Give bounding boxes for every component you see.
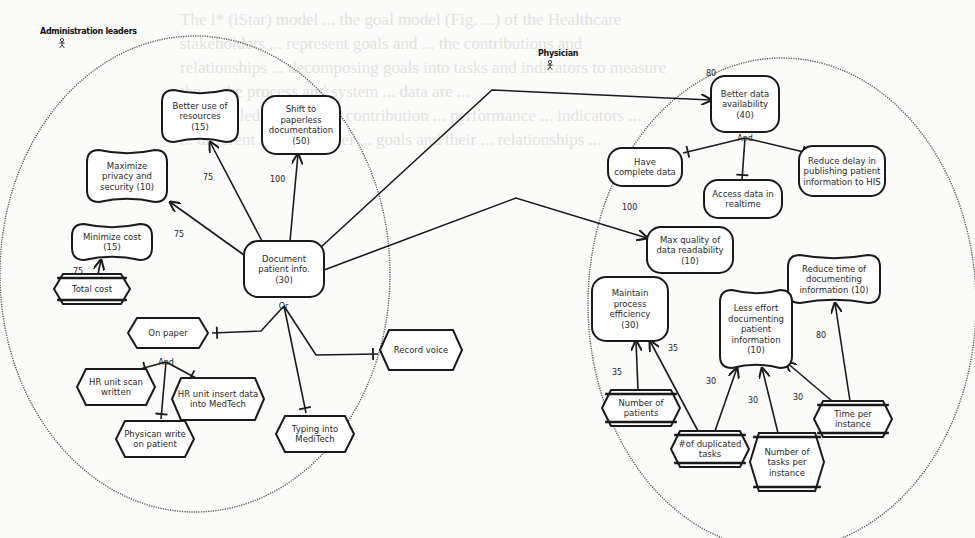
contribution-link[interactable]: 30	[748, 368, 778, 433]
node-label-line: Reduce delay in	[808, 156, 876, 166]
node-label-line: privacy and	[102, 171, 152, 181]
contribution-weight: 100	[270, 175, 285, 184]
contribution-weight: 35	[612, 368, 622, 377]
node-label-line: paperless	[280, 115, 322, 125]
node-max-quality[interactable]: Max quality ofdata readability(10)	[647, 227, 733, 273]
node-label-line: process	[614, 299, 647, 309]
node-hr-insert[interactable]: HR unit insert datainto MedTech	[172, 378, 264, 420]
node-realtime[interactable]: Access data inrealtime	[704, 180, 782, 218]
decomposition-and[interactable]: And	[683, 134, 808, 180]
node-label-line: MediTech	[295, 434, 334, 444]
decomposition-branch	[742, 138, 745, 180]
node-label-line: Document	[262, 254, 307, 264]
actor-admin[interactable]: Administration leaders	[40, 27, 137, 48]
decomposition-branch	[161, 362, 166, 419]
node-label-line: information	[731, 335, 780, 345]
node-label-line: patient info.	[258, 264, 309, 274]
contribution-link[interactable]: 30	[706, 368, 737, 431]
node-label-line: HR unit insert data	[178, 389, 258, 399]
node-label-line: realtime	[725, 199, 760, 209]
node-num-patients[interactable]: Number ofpatients	[602, 390, 680, 426]
node-tasks-per-inst[interactable]: Number oftasks perinstance	[750, 433, 824, 491]
node-label-line: #of duplicated	[679, 439, 742, 449]
contribution-link[interactable]: 75	[170, 202, 244, 255]
node-reduce-time[interactable]: Reduce time ofdocumentinginformation (10…	[788, 255, 880, 303]
node-paperless[interactable]: Shift topaperlessdocumentation(50)	[262, 96, 340, 154]
contribution-weight: 30	[706, 377, 716, 386]
actor-label: Physician	[538, 49, 579, 58]
decomposition-bar	[299, 407, 311, 409]
node-label-line: (10)	[747, 345, 764, 355]
contribution-weight: 80	[816, 331, 826, 340]
node-better-data[interactable]: Better dataavailability(40)	[711, 76, 779, 132]
node-privacy[interactable]: Maximizeprivacy andsecurity (10)	[87, 150, 167, 202]
node-record-voice[interactable]: Record voice	[380, 330, 462, 370]
node-label-line: on patient	[133, 439, 177, 449]
node-label-line: (30)	[275, 275, 292, 285]
contribution-weight: 80	[706, 69, 716, 78]
node-label-line: security (10)	[100, 182, 154, 192]
node-label-line: data readability	[656, 245, 723, 255]
node-dup-tasks[interactable]: #of duplicatedtasks	[671, 431, 749, 467]
contribution-link[interactable]: 80	[816, 303, 850, 401]
node-label-line: Reduce time of	[802, 264, 867, 274]
node-label-line: availability	[722, 99, 768, 109]
contribution-link[interactable]: 75	[203, 142, 262, 241]
actor-labels: Administration leadersPhysician	[40, 27, 579, 70]
node-better-resources[interactable]: Better use ofresources(15)	[162, 90, 238, 142]
node-total-cost[interactable]: Total cost	[54, 274, 130, 304]
node-min-cost[interactable]: Minimize cost(15)	[72, 224, 152, 260]
node-label-line: (30)	[621, 320, 638, 330]
node-doc-patient[interactable]: Documentpatient info.(30)	[244, 241, 324, 297]
node-label-line: Less effort	[734, 303, 779, 313]
goal-model-diagram: 75100757580100353530303080 OrAndAnd Bett…	[0, 0, 975, 538]
node-typing-meditech[interactable]: Typing intoMediTech	[276, 416, 354, 452]
contribution-link[interactable]: 30	[786, 362, 832, 402]
node-label-line: instance	[769, 468, 805, 478]
decomposition-branch	[683, 138, 745, 153]
node-hr-scan[interactable]: HR unit scanwritten	[77, 369, 155, 405]
node-label-line: resources	[179, 111, 221, 121]
node-label-line: publishing patient	[804, 166, 881, 176]
node-label-line: complete data	[614, 167, 676, 177]
node-label-line: information (10)	[799, 285, 868, 295]
node-label-line: (10)	[681, 256, 698, 266]
contribution-link[interactable]: 100	[270, 154, 298, 241]
node-label-line: Have	[634, 157, 656, 167]
node-label-line: tasks per	[767, 457, 807, 467]
decomposition-branch	[212, 306, 284, 333]
diagram-nodes: Better use ofresources(15)Shift topaperl…	[54, 76, 892, 491]
node-complete-data[interactable]: Havecomplete data	[608, 148, 682, 186]
node-label-line: Record voice	[394, 345, 449, 355]
node-less-effort[interactable]: Less effortdocumentingpatientinformation…	[720, 290, 792, 368]
node-label-line: HR unit scan	[89, 377, 143, 387]
node-label-line: patients	[624, 408, 659, 418]
node-label-line: patient	[741, 324, 772, 334]
contribution-weight: 75	[174, 230, 184, 239]
node-label-line: Physican write	[124, 429, 186, 439]
contribution-link[interactable]: 100	[324, 198, 647, 270]
contribution-weight: 30	[793, 393, 803, 402]
contribution-link[interactable]: 35	[612, 341, 638, 390]
node-label-line: documenting	[806, 274, 862, 284]
node-reduce-delay[interactable]: Reduce delay inpublishing patientinforma…	[799, 146, 885, 196]
node-label-line: written	[101, 387, 131, 397]
node-label-line: Access data in	[712, 189, 773, 199]
node-label-line: Number of	[618, 398, 664, 408]
node-time-per-inst[interactable]: Time perinstance	[814, 401, 892, 437]
node-label-line: (15)	[191, 122, 208, 132]
node-phys-write[interactable]: Physican writeon patient	[116, 421, 194, 457]
actor-physician[interactable]: Physician	[538, 49, 579, 70]
node-label-line: Better data	[721, 89, 769, 99]
node-maintain-eff[interactable]: Maintainprocessefficiency(30)	[592, 277, 668, 341]
node-label-line: Total cost	[71, 284, 113, 294]
contribution-weight: 35	[668, 344, 678, 353]
node-label-line: Time per	[833, 409, 872, 419]
node-label-line: information to HIS	[803, 177, 880, 187]
node-label-line: documentation	[269, 125, 333, 135]
node-label-line: (40)	[736, 110, 753, 120]
node-on-paper[interactable]: On paper	[128, 318, 208, 348]
actor-label: Administration leaders	[40, 27, 137, 36]
node-label-line: Maintain	[612, 288, 649, 298]
node-label-line: On paper	[148, 328, 188, 338]
